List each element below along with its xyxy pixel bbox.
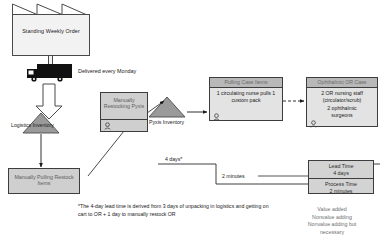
legend-nonvalue-necessary-2: necessary [284, 229, 380, 237]
truck-icon [26, 62, 74, 84]
timeline-lead-label: 4 days* [165, 156, 182, 162]
legend-value-added: Value added [284, 206, 380, 214]
process-ophthalmic-or-case[interactable]: Ophthalmic OR Case 2 OR nursing staff (c… [306, 77, 378, 127]
supplier-box: Standing Weekly Order [12, 14, 90, 56]
process-title: Manually Pulling Restock Items [14, 174, 73, 186]
timeline-process-label: 2 minutes [222, 173, 245, 179]
process-title: Manually Restocking Pyxis [101, 93, 147, 110]
process-title: Pulling Case Items [210, 78, 282, 88]
process-body-text: 1 circulating nurse pulls 1 custom pack [217, 90, 276, 103]
process-pulling-case-items[interactable]: Pulling Case Items 1 circulating nurse p… [209, 77, 283, 121]
pyxis-inventory-label: Pyxis Inventory [149, 119, 184, 125]
process-body-line-1: 2 OR nursing staff [309, 90, 375, 97]
process-operator-cell [101, 119, 147, 131]
legend-nonvalue-adding: Nonvalue adding [284, 214, 380, 222]
process-body: 1 circulating nurse pulls 1 custom pack [210, 88, 282, 123]
process-time-cell: Process Time 2 minutes [309, 179, 373, 196]
operator-icon [103, 122, 112, 130]
process-body-line-4: surgeons [309, 112, 375, 119]
delivery-note: Delivered every Monday [78, 68, 136, 74]
legend-nonvalue-necessary-1: Nonvalue adding but [284, 221, 380, 229]
process-body-line-2: (circulator/scrub) [309, 97, 375, 104]
process-manually-restocking-pyxis[interactable]: Manually Restocking Pyxis [100, 92, 148, 132]
operator-icon [309, 120, 318, 128]
process-time-label: Process Time [309, 181, 373, 188]
logistics-inventory-label: Logistics Inventory [11, 122, 54, 128]
logistics-inventory: Logistics Inventory [22, 112, 60, 134]
lead-time-cell: Lead Time 4 days [309, 161, 373, 179]
process-body: 2 OR nursing staff (circulator/scrub) 2 … [307, 88, 377, 130]
value-stream-map-canvas: Standing Weekly Order Delivered every Mo… [0, 0, 386, 244]
lead-time-value: 4 days [309, 170, 373, 177]
process-title: Ophthalmic OR Case [307, 78, 377, 88]
process-manually-pulling-restock-items[interactable]: Manually Pulling Restock Items [8, 168, 80, 194]
process-time-value: 2 minutes [309, 188, 373, 195]
lead-time-label: Lead Time [309, 163, 373, 170]
footnote: *The 4-day lead time is derived from 3 d… [78, 203, 278, 219]
operator-icon [212, 113, 221, 121]
pyxis-inventory: Pyxis Inventory [148, 96, 186, 118]
summary-data-box: Lead Time 4 days Process Time 2 minutes [308, 160, 374, 194]
process-body-line-3: 2 ophthalmic [309, 105, 375, 112]
supplier-label: Standing Weekly Order [13, 28, 89, 34]
legend: Value added Nonvalue adding Nonvalue add… [284, 206, 380, 236]
inventory-triangle-icon [148, 96, 186, 118]
